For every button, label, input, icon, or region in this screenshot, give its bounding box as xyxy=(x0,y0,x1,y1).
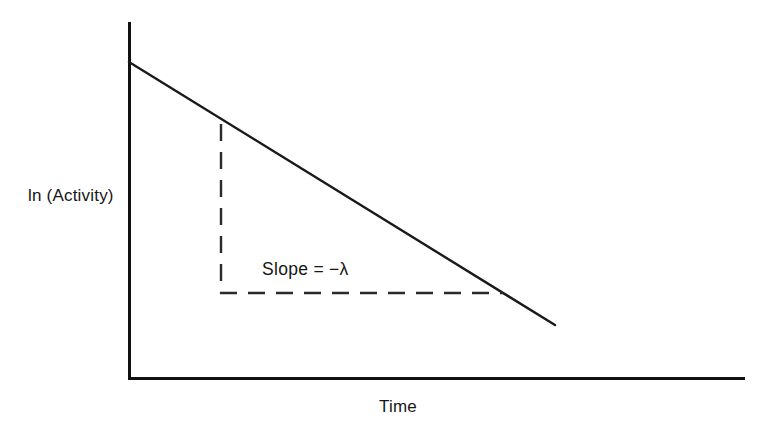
chart-canvas: ln (Activity) Time Slope = −λ xyxy=(0,0,779,430)
slope-annotation-label: Slope = −λ xyxy=(262,259,349,279)
x-axis-label: Time xyxy=(379,397,417,416)
chart-background xyxy=(0,0,779,430)
decay-curve-figure: ln (Activity) Time Slope = −λ xyxy=(0,0,779,430)
y-axis-label: ln (Activity) xyxy=(28,186,114,205)
